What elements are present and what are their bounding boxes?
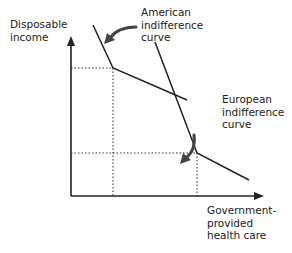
dotted-guides: [71, 68, 197, 196]
x-axis-arrowhead-icon: [254, 192, 264, 200]
american-curve-label: American indifference curve: [141, 6, 203, 44]
american-callout-arrow-icon: [110, 27, 136, 38]
y-axis-label: Disposable income: [10, 18, 68, 43]
x-axis-label: Government- provided health care: [207, 204, 276, 242]
european-callout-arrow-icon: [186, 135, 194, 158]
european-curve-label: European indifference curve: [222, 93, 284, 131]
y-axis-arrowhead-icon: [67, 36, 75, 46]
